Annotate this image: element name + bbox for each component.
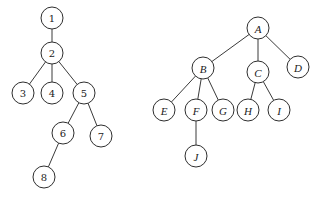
node-label: 3 [20,88,26,99]
node-label: B [200,63,207,75]
node-A: A [247,17,269,39]
node-4: 4 [41,82,63,104]
node-label: 7 [98,131,104,142]
edge-B-G [208,78,219,100]
node-I: I [268,99,290,121]
node-8: 8 [33,166,55,188]
nodes-layer: 12345678ABCDEFGHIJ [12,7,309,188]
edge-2-5 [59,62,77,85]
node-label: 4 [49,88,55,99]
edge-B-F [198,79,201,99]
edge-A-D [266,36,290,60]
node-1: 1 [41,7,63,29]
node-J: J [185,145,207,167]
edge-2-3 [29,62,45,84]
node-label: E [160,105,168,117]
edge-6-8 [48,143,58,167]
edge-C-I [263,82,273,101]
node-label: C [254,67,262,79]
node-2: 2 [41,42,63,64]
node-C: C [247,61,269,83]
node-B: B [192,57,214,79]
node-H: H [237,99,259,121]
node-D: D [287,56,309,78]
node-3: 3 [12,82,34,104]
node-label: A [254,23,262,35]
node-6: 6 [52,122,74,144]
node-label: H [243,105,253,117]
edge-B-E [171,76,195,102]
node-label: 8 [41,172,47,183]
edge-5-6 [68,103,79,124]
node-label: D [293,62,302,74]
node-E: E [153,99,175,121]
node-label: 6 [60,128,66,139]
edges-layer [29,29,290,167]
node-label: G [219,105,227,117]
node-label: 2 [49,48,55,59]
node-label: 1 [49,13,55,24]
node-label: F [192,105,200,117]
node-5: 5 [73,82,95,104]
edge-C-H [251,83,255,100]
node-F: F [185,99,207,121]
edge-5-7 [88,103,97,126]
node-7: 7 [90,125,112,147]
tree-diagram: 12345678ABCDEFGHIJ [0,0,320,197]
node-label: 5 [81,88,87,99]
edge-A-B [212,34,249,61]
node-G: G [212,99,234,121]
